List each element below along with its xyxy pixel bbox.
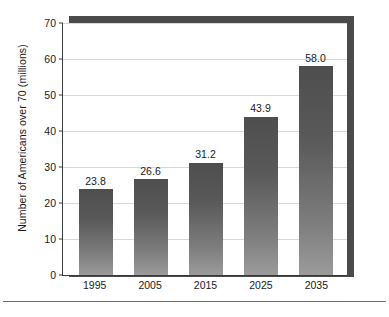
bar-value-label: 31.2: [195, 149, 215, 160]
x-axis-tick-label: 1995: [67, 279, 122, 291]
bar-slot: 58.0: [288, 23, 343, 275]
bar-value-label: 43.9: [250, 103, 270, 114]
y-axis-title: Number of Americans over 70 (millions): [14, 0, 30, 276]
y-axis-tick-mark: [59, 23, 63, 24]
bar-value-label: 58.0: [305, 53, 325, 64]
bar-slot: 43.9: [233, 23, 288, 275]
x-axis-tick-label: 2015: [178, 279, 233, 291]
bar-slot: 23.8: [68, 23, 123, 275]
bar-value-label: 23.8: [85, 176, 105, 187]
bar-value-label: 26.6: [140, 166, 160, 177]
y-axis-tick-mark: [59, 131, 63, 132]
bar[interactable]: 23.8: [79, 189, 113, 275]
bar[interactable]: 31.2: [189, 163, 223, 275]
x-axis-tick-label: 2005: [122, 279, 177, 291]
bar-slot: 31.2: [178, 23, 233, 275]
bar-slot: 26.6: [123, 23, 178, 275]
y-axis-tick-mark: [59, 167, 63, 168]
plot-area: 010203040506070 23.826.631.243.958.0: [62, 23, 347, 276]
y-axis-title-text: Number of Americans over 70 (millions): [16, 44, 28, 232]
bars-group: 23.826.631.243.958.0: [64, 23, 347, 275]
y-axis-tick-mark: [59, 275, 63, 276]
y-axis-tick-mark: [59, 59, 63, 60]
x-axis-tick-label: 2025: [233, 279, 288, 291]
x-axis-tick-label: 2035: [289, 279, 344, 291]
bottom-divider-rule: [3, 301, 386, 302]
y-axis-tick-mark: [59, 203, 63, 204]
y-axis-tick-mark: [59, 95, 63, 96]
bar[interactable]: 26.6: [134, 179, 168, 275]
bar[interactable]: 43.9: [244, 117, 278, 275]
y-axis-tick-mark: [59, 239, 63, 240]
x-axis-labels-group: 19952005201520252035: [63, 279, 348, 291]
bar-chart-figure: Number of Americans over 70 (millions) 0…: [0, 0, 389, 317]
bar[interactable]: 58.0: [299, 66, 333, 275]
